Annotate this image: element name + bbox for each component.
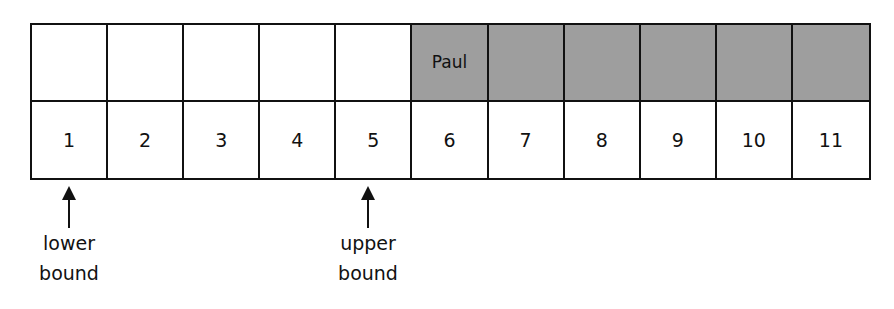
upper-bound-arrow-icon [367,188,369,228]
upper-bound-line1: upper [318,228,418,258]
index-cell-11: 11 [793,102,869,179]
upper-bound-line2: bound [318,258,418,288]
index-cell-1: 1 [32,102,108,179]
value-cell-2 [108,25,184,102]
value-cell-5 [336,25,412,102]
index-cell-7: 7 [489,102,565,179]
value-cell-1 [32,25,108,102]
upper-bound-label: upper bound [318,228,418,288]
index-cell-3: 3 [184,102,260,179]
lower-bound-line2: bound [19,258,119,288]
index-cell-9: 9 [641,102,717,179]
value-cell-8 [565,25,641,102]
lower-bound-line1: lower [19,228,119,258]
lower-bound-arrow-icon [68,188,70,228]
value-cell-10 [717,25,793,102]
index-cell-8: 8 [565,102,641,179]
value-cell-11 [793,25,869,102]
value-cell-3 [184,25,260,102]
index-cell-2: 2 [108,102,184,179]
value-cell-6: Paul [412,25,488,102]
array-grid: Paul 1 2 3 4 5 6 7 8 9 10 11 [30,23,871,180]
lower-bound-label: lower bound [19,228,119,288]
index-cell-6: 6 [412,102,488,179]
index-cell-4: 4 [260,102,336,179]
index-cell-5: 5 [336,102,412,179]
index-cell-10: 10 [717,102,793,179]
value-cell-4 [260,25,336,102]
value-cell-7 [489,25,565,102]
value-cell-9 [641,25,717,102]
